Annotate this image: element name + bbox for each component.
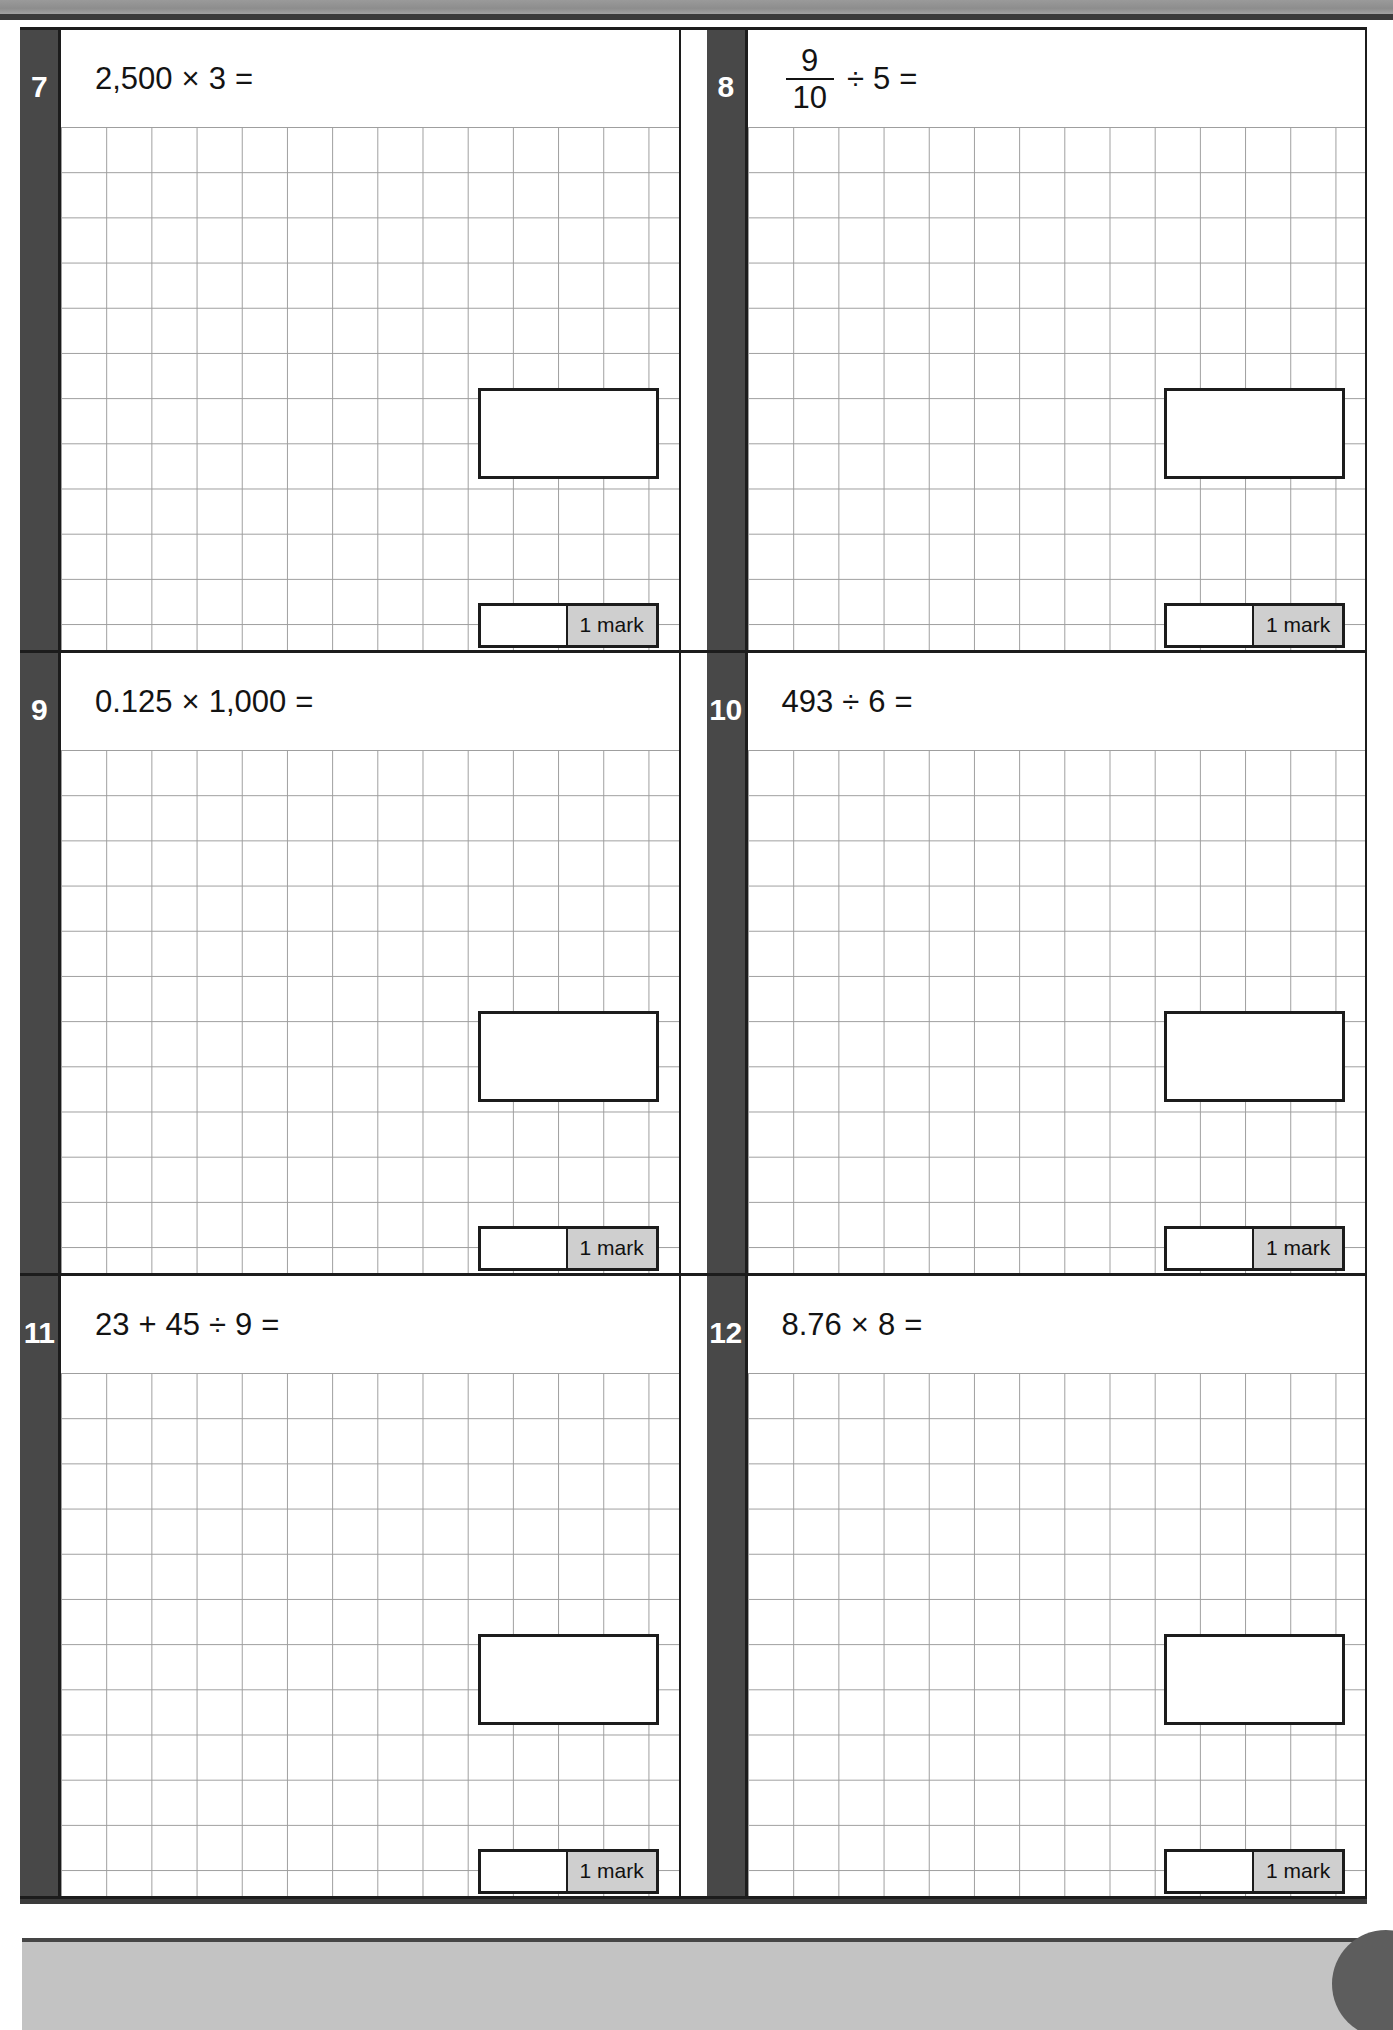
question-number-tab: 11 — [20, 1276, 58, 1896]
number-term: 1,000 — [209, 684, 287, 720]
operator: ÷ — [847, 61, 864, 97]
mark-badge: 1 mark — [1252, 1229, 1342, 1268]
number-term: 45 — [166, 1307, 200, 1343]
mark-row: 1 mark — [1164, 1849, 1345, 1894]
question-number-tab: 7 — [20, 30, 58, 650]
question-body: 910÷5=1 mark — [745, 30, 1368, 650]
operator: = — [904, 1307, 922, 1343]
question-expression: 910÷5= — [782, 45, 927, 113]
question-header: 23+45÷9= — [61, 1276, 679, 1373]
working-cell[interactable] — [481, 606, 566, 645]
mark-badge: 1 mark — [1252, 606, 1342, 645]
question-header: 910÷5= — [748, 30, 1366, 127]
question-body: 2,500×3=1 mark — [58, 30, 681, 650]
mark-badge: 1 mark — [566, 606, 656, 645]
question-number-tab: 10 — [707, 653, 745, 1273]
answer-box[interactable] — [1164, 388, 1345, 478]
mark-row: 1 mark — [478, 603, 659, 648]
number-term: 0.125 — [95, 684, 173, 720]
column-gap — [681, 653, 707, 1273]
question-panel-9: 90.125×1,000=1 mark — [20, 653, 681, 1273]
top-banner — [0, 0, 1393, 14]
question-row: 1123+45÷9=1 mark128.76×8=1 mark — [20, 1273, 1367, 1899]
mark-row: 1 mark — [1164, 603, 1345, 648]
question-panel-10: 10493÷6=1 mark — [707, 653, 1368, 1273]
answer-box[interactable] — [1164, 1011, 1345, 1101]
column-gap — [681, 30, 707, 650]
working-cell[interactable] — [1167, 1852, 1252, 1891]
question-header: 493÷6= — [748, 653, 1366, 750]
operator: + — [138, 1307, 156, 1343]
mark-badge: 1 mark — [566, 1852, 656, 1891]
mark-badge: 1 mark — [566, 1229, 656, 1268]
working-cell[interactable] — [1167, 606, 1252, 645]
mark-row: 1 mark — [1164, 1226, 1345, 1271]
question-body: 23+45÷9=1 mark — [58, 1276, 681, 1896]
column-gap — [681, 1276, 707, 1896]
answer-box[interactable] — [478, 1634, 659, 1724]
question-header: 0.125×1,000= — [61, 653, 679, 750]
footer-bar — [22, 1938, 1362, 2030]
fraction: 910 — [786, 45, 834, 113]
operator: = — [899, 61, 917, 97]
question-panel-12: 128.76×8=1 mark — [707, 1276, 1368, 1896]
question-panel-7: 72,500×3=1 mark — [20, 30, 681, 650]
number-term: 8.76 — [782, 1307, 842, 1343]
number-term: 5 — [873, 61, 890, 97]
question-number-tab: 9 — [20, 653, 58, 1273]
answer-box[interactable] — [478, 1011, 659, 1101]
bottom-horizontal-rule — [20, 1899, 1367, 1904]
number-term: 6 — [868, 684, 885, 720]
question-expression: 8.76×8= — [782, 1307, 932, 1343]
operator: = — [895, 684, 913, 720]
question-number-tab: 12 — [707, 1276, 745, 1896]
top-horizontal-rule — [0, 14, 1393, 20]
question-body: 8.76×8=1 mark — [745, 1276, 1368, 1896]
answer-box[interactable] — [478, 388, 659, 478]
number-term: 3 — [209, 61, 226, 97]
number-term: 2,500 — [95, 61, 173, 97]
question-expression: 2,500×3= — [95, 61, 262, 97]
question-expression: 0.125×1,000= — [95, 684, 322, 720]
operator: = — [235, 61, 253, 97]
mark-row: 1 mark — [478, 1226, 659, 1271]
operator: × — [851, 1307, 869, 1343]
question-header: 2,500×3= — [61, 30, 679, 127]
operator: × — [182, 61, 200, 97]
question-panel-8: 8910÷5=1 mark — [707, 30, 1368, 650]
fraction-denominator: 10 — [786, 80, 834, 113]
fraction-numerator: 9 — [794, 45, 825, 78]
question-number-tab: 8 — [707, 30, 745, 650]
operator: ÷ — [842, 684, 859, 720]
operator: × — [182, 684, 200, 720]
question-body: 0.125×1,000=1 mark — [58, 653, 681, 1273]
number-term: 493 — [782, 684, 834, 720]
working-cell[interactable] — [481, 1229, 566, 1268]
question-sheet: 72,500×3=1 mark8910÷5=1 mark90.125×1,000… — [20, 27, 1367, 1899]
working-cell[interactable] — [481, 1852, 566, 1891]
question-header: 8.76×8= — [748, 1276, 1366, 1373]
question-body: 493÷6=1 mark — [745, 653, 1368, 1273]
working-cell[interactable] — [1167, 1229, 1252, 1268]
answer-box[interactable] — [1164, 1634, 1345, 1724]
operator: = — [295, 684, 313, 720]
question-row: 90.125×1,000=1 mark10493÷6=1 mark — [20, 650, 1367, 1273]
number-term: 23 — [95, 1307, 129, 1343]
mark-badge: 1 mark — [1252, 1852, 1342, 1891]
question-panel-11: 1123+45÷9=1 mark — [20, 1276, 681, 1896]
number-term: 8 — [878, 1307, 895, 1343]
question-row: 72,500×3=1 mark8910÷5=1 mark — [20, 27, 1367, 650]
question-expression: 23+45÷9= — [95, 1307, 288, 1343]
question-expression: 493÷6= — [782, 684, 922, 720]
question-grid: 72,500×3=1 mark8910÷5=1 mark90.125×1,000… — [20, 27, 1367, 1899]
mark-row: 1 mark — [478, 1849, 659, 1894]
number-term: 9 — [235, 1307, 252, 1343]
operator: ÷ — [209, 1307, 226, 1343]
operator: = — [261, 1307, 279, 1343]
